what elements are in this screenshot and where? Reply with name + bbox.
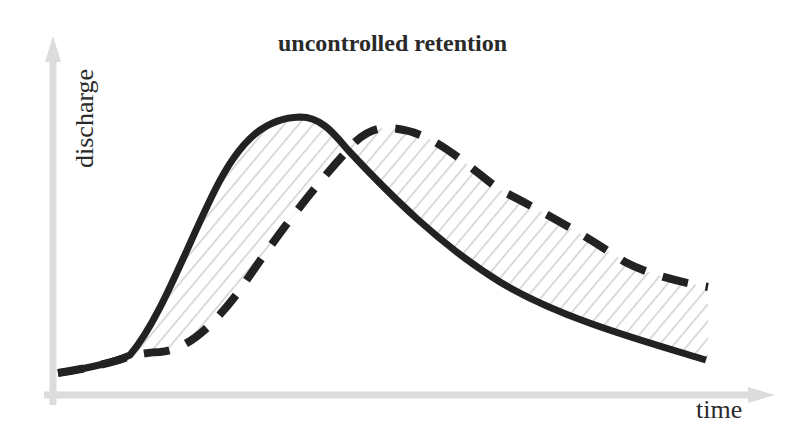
diagram-title: uncontrolled retention [278,30,507,57]
retention-hatched-area [130,117,708,360]
hydrograph-svg [0,0,809,445]
y-axis-label: discharge [70,28,100,168]
x-axis-arrow-icon [748,387,775,403]
diagram-canvas: uncontrolled retention discharge time [0,0,809,445]
x-axis-label: time [696,395,742,425]
y-axis-arrow-icon [45,36,61,62]
